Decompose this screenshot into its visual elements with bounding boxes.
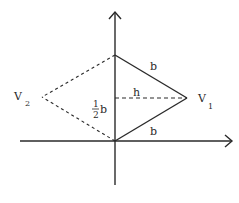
label-v1: V 1 — [197, 92, 213, 111]
half-b-denominator: 2 — [93, 110, 99, 120]
label-h: h — [133, 86, 140, 99]
label-v2: V 2 — [13, 90, 30, 108]
triangle-diagram: b b h 1 2 b V 1 V 2 — [0, 0, 239, 203]
label-b-upper: b — [150, 60, 157, 73]
v1-sub: 1 — [208, 102, 213, 111]
label-b-lower: b — [150, 125, 157, 138]
half-b-numerator: 1 — [93, 99, 99, 109]
half-b-symbol: b — [100, 103, 107, 116]
v2-sub: 2 — [25, 99, 30, 108]
edge-top-v2 — [42, 55, 115, 97]
x-axis — [20, 135, 232, 147]
label-half-b: 1 2 b — [92, 99, 107, 120]
v1-main: V — [197, 92, 207, 105]
v2-main: V — [13, 90, 23, 103]
